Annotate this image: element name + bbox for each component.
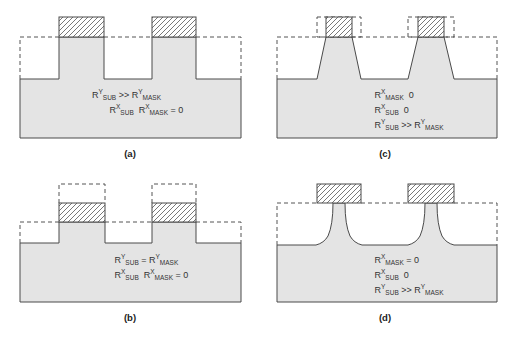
mask-b-1 bbox=[59, 203, 105, 222]
equation-b-2: RXSUB RXMASK = 0 bbox=[97, 268, 201, 281]
caption-a: (a) bbox=[124, 148, 136, 159]
substrate-c bbox=[277, 37, 497, 138]
panel-b: RYSUB = RYMASK RXSUB RXMASK = 0 (b) bbox=[20, 184, 241, 323]
caption-d: (d) bbox=[379, 312, 391, 323]
mask-a-1 bbox=[59, 17, 104, 37]
original-surface-outline-d bbox=[277, 203, 497, 245]
caption-b: (b) bbox=[124, 312, 136, 323]
panel-d: RXMASK = 0 RXSUB 0 RYSUB >> RYMASK (d) bbox=[277, 184, 497, 323]
panel-a: RYSUB >> RYMASK RXSUB RXMASK = 0 (a) bbox=[20, 17, 241, 159]
equation-a-2: RXSUB RXMASK = 0 bbox=[92, 103, 196, 116]
original-surface-outline-b bbox=[20, 222, 241, 243]
etch-profile-diagram: RYSUB >> RYMASK RXSUB RXMASK = 0 (a) RXM… bbox=[0, 0, 513, 338]
original-surface-outline-a bbox=[20, 37, 241, 79]
panel-c: RXMASK 0 RXSUB 0 RYSUB >> RYMASK (c) bbox=[277, 17, 497, 159]
original-mask-outline-b-1 bbox=[59, 184, 105, 203]
mask-c-1 bbox=[326, 17, 352, 37]
original-mask-outline-b-2 bbox=[152, 184, 196, 203]
original-surface-outline-c bbox=[277, 37, 497, 79]
caption-c: (c) bbox=[379, 148, 391, 159]
mask-c-2 bbox=[418, 17, 444, 37]
mask-b-2 bbox=[152, 203, 196, 222]
substrate-a bbox=[20, 37, 241, 138]
mask-d-1 bbox=[317, 184, 361, 203]
substrate-d bbox=[277, 203, 497, 302]
mask-d-2 bbox=[408, 184, 454, 203]
mask-a-2 bbox=[152, 17, 196, 37]
